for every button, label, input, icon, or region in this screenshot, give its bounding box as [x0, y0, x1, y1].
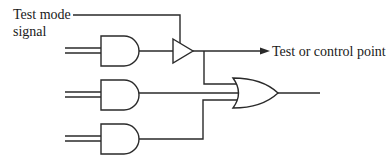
- circuit-schematic: [0, 0, 386, 165]
- and-gate-3: [65, 100, 238, 154]
- circuit-diagram: Test mode signal Test or control point: [0, 0, 386, 165]
- and-gate-1: [65, 36, 173, 66]
- buffer-gate: [173, 39, 193, 63]
- or-gate: [233, 78, 320, 108]
